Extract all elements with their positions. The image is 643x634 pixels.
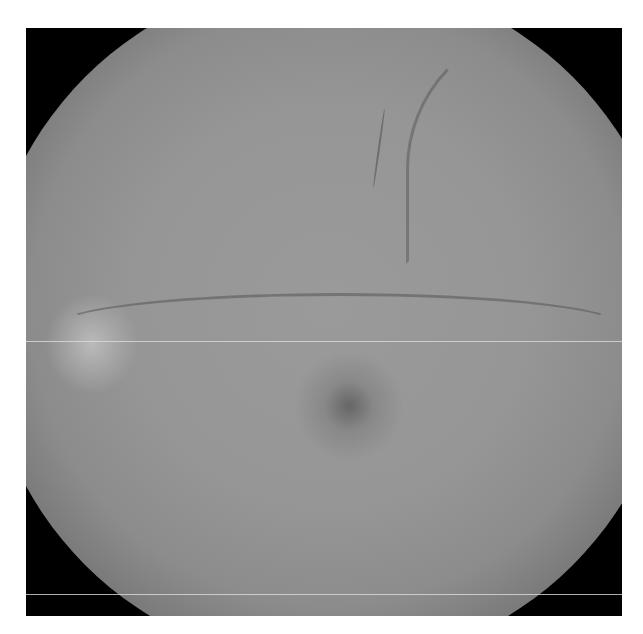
scan-line-artifact bbox=[26, 594, 622, 595]
retinal-vessel-horizontal bbox=[56, 293, 622, 359]
fundus-image-frame bbox=[26, 28, 622, 616]
scan-line-artifact bbox=[26, 341, 622, 342]
